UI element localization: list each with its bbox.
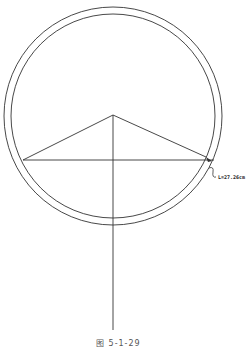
dimension-brace-icon [209, 168, 216, 178]
diagram-canvas: L=27.26cm 图 5-1-29 [0, 0, 251, 348]
right-slant-line [113, 115, 206, 157]
left-slant-line [23, 115, 113, 160]
dimension-arrow-icon [206, 157, 212, 162]
dimension-label: L=27.26cm [218, 174, 245, 180]
circle-diagram [0, 0, 251, 348]
figure-caption: 图 5-1-29 [96, 337, 141, 348]
